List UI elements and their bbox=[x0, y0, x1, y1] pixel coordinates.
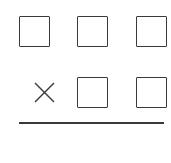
result-underline bbox=[19, 122, 164, 124]
multiplicand-digit-box-3 bbox=[136, 16, 167, 47]
multiply-icon bbox=[34, 82, 55, 103]
multiplier-digit-box-2 bbox=[136, 77, 167, 108]
multiplier-digit-box-1 bbox=[77, 77, 108, 108]
multiplicand-digit-box-1 bbox=[19, 16, 50, 47]
multiplicand-digit-box-2 bbox=[77, 16, 108, 47]
